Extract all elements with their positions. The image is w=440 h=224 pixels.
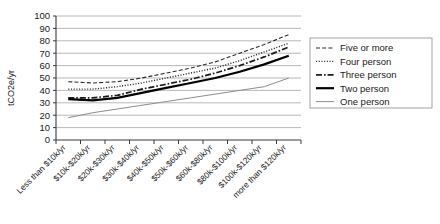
y-axis-ticks: 0102030405060708090100 [34,10,56,145]
line-chart: 0102030405060708090100 tCO2e/yr Less tha… [0,0,440,224]
y-tick-label: 100 [34,10,50,21]
y-tick-label: 30 [39,97,50,108]
legend-label: Five or more [340,42,393,53]
y-tick-label: 60 [39,60,50,71]
chart-container: 0102030405060708090100 tCO2e/yr Less tha… [0,0,440,224]
legend-label: One person [340,96,390,107]
y-tick-label: 0 [45,134,50,145]
legend-label: Two person [340,83,389,94]
y-tick-label: 80 [39,35,50,46]
legend-label: Four person [340,56,391,67]
y-tick-label: 20 [39,110,50,121]
x-axis-ticks [56,140,301,144]
y-tick-label: 50 [39,72,50,83]
y-axis-title: tCO2e/yr [6,70,16,106]
y-tick-label: 10 [39,122,50,133]
y-tick-label: 70 [39,48,50,59]
y-tick-label: 90 [39,23,50,34]
y-tick-label: 40 [39,85,50,96]
legend-label: Three person [340,69,397,80]
x-axis-labels: Less than $10k/yr$10k-$20k/yr$20k-$30k/y… [14,142,288,200]
